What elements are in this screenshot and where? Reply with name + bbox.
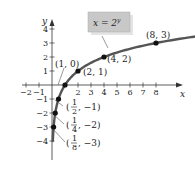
y-axis-label: y bbox=[41, 16, 48, 26]
y-tick-label: 3 bbox=[43, 39, 48, 48]
y-tick-label: 4 bbox=[43, 25, 48, 34]
point-label: (2, 1) bbox=[83, 67, 107, 77]
x-tick-label: 2 bbox=[75, 88, 80, 97]
data-point bbox=[51, 124, 56, 129]
log-curve-plot: −2−123456784321−1−2−3−4 x y x = 2y (1, 0… bbox=[0, 0, 195, 179]
svg-text:, −1): , −1) bbox=[78, 102, 101, 112]
x-tick-label: 7 bbox=[140, 88, 145, 97]
y-tick-label: −4 bbox=[36, 137, 48, 146]
x-tick-label: 4 bbox=[101, 88, 106, 97]
equation-text: x = 2y bbox=[93, 16, 121, 28]
svg-text:1: 1 bbox=[72, 134, 77, 143]
svg-text:1: 1 bbox=[72, 116, 77, 125]
y-tick-label: 2 bbox=[43, 53, 48, 62]
point-label: (18, −3) bbox=[66, 134, 101, 152]
svg-text:(: ( bbox=[66, 138, 70, 148]
svg-text:1: 1 bbox=[72, 98, 77, 107]
svg-text:, −2): , −2) bbox=[78, 120, 101, 130]
data-point bbox=[153, 40, 158, 45]
svg-text:4: 4 bbox=[72, 125, 77, 134]
point-label: (12, −1) bbox=[66, 98, 101, 116]
point-label: (4, 2) bbox=[107, 54, 131, 64]
y-tick-label: 1 bbox=[43, 67, 48, 76]
x-tick-label: 8 bbox=[153, 88, 158, 97]
svg-text:(: ( bbox=[66, 102, 70, 112]
point-label: (1, 0) bbox=[55, 59, 79, 69]
y-tick-label: −1 bbox=[36, 95, 48, 104]
data-point bbox=[56, 96, 61, 101]
data-point bbox=[101, 54, 106, 59]
x-axis-label: x bbox=[180, 89, 185, 99]
y-tick-label: −2 bbox=[36, 109, 48, 118]
graph-container: −2−123456784321−1−2−3−4 x y x = 2y (1, 0… bbox=[0, 0, 195, 179]
x-tick-label: −2 bbox=[20, 88, 32, 97]
x-axis bbox=[22, 83, 183, 88]
svg-text:, −3): , −3) bbox=[78, 138, 101, 148]
equation-label-box: x = 2y bbox=[88, 12, 133, 48]
point-label: (14, −2) bbox=[66, 116, 101, 134]
data-point bbox=[75, 68, 80, 73]
svg-text:(: ( bbox=[66, 120, 70, 130]
data-point bbox=[62, 82, 67, 87]
x-tick-label: 3 bbox=[88, 88, 93, 97]
x-tick-label: 6 bbox=[127, 88, 132, 97]
y-tick-label: −3 bbox=[36, 123, 48, 132]
data-point bbox=[53, 110, 58, 115]
svg-text:2: 2 bbox=[72, 107, 77, 116]
x-tick-label: 5 bbox=[114, 88, 119, 97]
point-label: (8, 3) bbox=[146, 30, 170, 40]
svg-text:8: 8 bbox=[72, 143, 77, 152]
